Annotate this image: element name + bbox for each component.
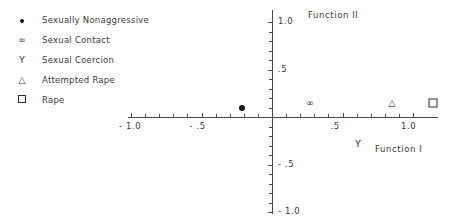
- x-tick: [385, 114, 386, 117]
- x-axis-tick-label: - .5: [190, 121, 206, 131]
- x-tick: [314, 114, 315, 117]
- y-axis-line: [272, 10, 273, 214]
- y-tick: [269, 193, 272, 194]
- data-point-dot: [239, 105, 245, 111]
- y-tick: [269, 98, 272, 99]
- x-tick: [202, 113, 203, 117]
- x-axis-line: [128, 117, 438, 118]
- scatter-plot-figure: Sexually Nonaggressive∞Sexual ContactΥSe…: [0, 0, 461, 221]
- x-tick: [286, 114, 287, 117]
- y-axis-tick-label: .5: [278, 64, 287, 74]
- y-axis-tick-label: - 1.0: [278, 206, 300, 216]
- y-tick: [269, 146, 272, 147]
- x-tick: [371, 114, 372, 117]
- y-tick: [269, 32, 272, 33]
- y-tick: [269, 108, 272, 109]
- x-tick: [343, 113, 344, 117]
- x-tick: [399, 114, 400, 117]
- data-point-triangle: △: [388, 98, 395, 107]
- x-axis-tick-label: - 1.0: [119, 121, 141, 131]
- x-tick: [145, 114, 146, 117]
- y-tick: [269, 41, 272, 42]
- x-tick: [300, 114, 301, 117]
- y-tick: [268, 70, 272, 71]
- x-axis-tick-label: .5: [331, 121, 340, 131]
- x-tick: [216, 114, 217, 117]
- x-tick: [413, 113, 414, 117]
- x-axis-tick-label: 1.0: [401, 121, 416, 131]
- y-tick: [269, 60, 272, 61]
- data-point-infinity: ∞: [306, 98, 314, 107]
- y-tick: [268, 212, 272, 213]
- data-point-square: [428, 98, 437, 107]
- data-point-upsilon: Υ: [355, 139, 361, 148]
- y-tick: [269, 174, 272, 175]
- x-tick: [258, 114, 259, 117]
- y-tick: [269, 79, 272, 80]
- y-tick: [268, 22, 272, 23]
- x-axis-title: Function I: [375, 144, 422, 154]
- y-axis-tick-label: 1.0: [278, 16, 293, 26]
- x-tick: [173, 114, 174, 117]
- y-tick: [269, 203, 272, 204]
- x-tick: [159, 114, 160, 117]
- y-tick: [269, 155, 272, 156]
- y-tick: [269, 184, 272, 185]
- plot-area: - 1.0- .5.51.01.0.5- .5- 1.0 ∞Υ△ Functio…: [0, 0, 461, 221]
- y-tick: [269, 136, 272, 137]
- x-tick: [357, 114, 358, 117]
- y-tick: [269, 127, 272, 128]
- x-tick: [230, 114, 231, 117]
- y-axis-tick-label: - .5: [278, 159, 294, 169]
- x-tick: [328, 114, 329, 117]
- y-tick: [269, 89, 272, 90]
- y-tick: [268, 165, 272, 166]
- x-tick: [244, 114, 245, 117]
- y-tick: [269, 51, 272, 52]
- x-tick: [131, 113, 132, 117]
- y-axis-title: Function II: [308, 10, 358, 20]
- x-tick: [187, 114, 188, 117]
